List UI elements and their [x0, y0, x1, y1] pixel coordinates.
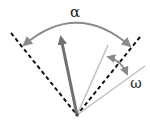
- omega-label: ω: [130, 75, 141, 91]
- alpha-label: α: [70, 3, 80, 21]
- main-direction-arrow: [61, 38, 77, 115]
- alpha-arc-arrow: [24, 23, 130, 46]
- apex-point: [75, 113, 79, 117]
- angle-diagram: α ω: [0, 0, 150, 120]
